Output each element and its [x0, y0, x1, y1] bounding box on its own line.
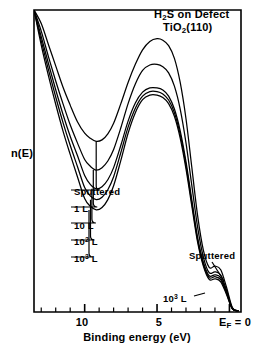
annotation-1000l-fermi: 103 L [163, 293, 187, 304]
y-axis-label: n(E) [11, 147, 33, 159]
figure-title-line1: H2S on Defect [154, 8, 229, 22]
legend-label-sputtered: Sputtered [74, 186, 120, 197]
annotation-sputtered-fermi: Sputtered [189, 250, 235, 261]
figure-title-line2: TiO2(110) [163, 21, 212, 35]
spectrum-curve-sputtered [34, 10, 238, 311]
spectrum-plot-svg [0, 0, 259, 358]
x-tick-label-5: 5 [156, 316, 162, 328]
legend-label-1l: 1 L [74, 203, 88, 214]
leader-line-4 [71, 210, 93, 257]
x-tick-label-10: 10 [76, 316, 89, 328]
legend-label-100l: 102 L [74, 236, 98, 247]
photoemission-spectrum-figure [0, 0, 259, 358]
spectra-curves [34, 10, 238, 311]
plot-frame [34, 10, 241, 312]
legend-label-10l: 10 L [74, 220, 94, 231]
x-tick-label-fermi: EF = 0 [219, 316, 251, 330]
legend-label-1000l: 103 L [74, 253, 98, 264]
x-axis-label: Binding energy (eV) [83, 331, 191, 343]
leader-line-1000l-fermi [194, 293, 205, 296]
